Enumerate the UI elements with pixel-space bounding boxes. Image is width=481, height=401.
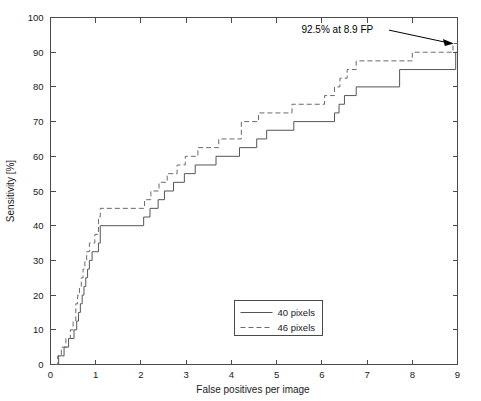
chart-legend: 40 pixels46 pixels <box>235 301 323 336</box>
annotation-arrowhead <box>443 39 454 46</box>
y-tick-label: 20 <box>33 290 44 301</box>
y-tick-label: 30 <box>33 255 44 266</box>
x-tick-label: 5 <box>274 369 279 380</box>
y-tick-label: 80 <box>33 81 44 92</box>
x-tick-label: 3 <box>184 369 189 380</box>
annotation-label: 92.5% at 8.9 FP <box>301 24 373 35</box>
y-tick-label: 0 <box>38 359 43 370</box>
x-axis-title: False positives per image <box>196 384 310 395</box>
y-tick-label: 10 <box>33 324 44 335</box>
x-tick-label: 7 <box>364 369 369 380</box>
annotation-group: 92.5% at 8.9 FP <box>301 24 453 46</box>
x-tick-label: 6 <box>319 369 324 380</box>
x-tick-label: 1 <box>93 369 98 380</box>
x-tick-label: 8 <box>410 369 415 380</box>
x-tick-label: 4 <box>229 369 234 380</box>
y-tick-label: 70 <box>33 116 44 127</box>
y-tick-label: 40 <box>33 220 44 231</box>
y-axis-title: Sensitivity [%] <box>5 160 16 222</box>
x-tick-label: 9 <box>455 369 460 380</box>
y-tick-label: 100 <box>28 12 44 23</box>
y-tick-label: 60 <box>33 151 44 162</box>
x-tick-label: 0 <box>48 369 53 380</box>
figure-container: 0123456789 0102030405060708090100 92.5% … <box>0 0 481 401</box>
legend-label: 40 pixels <box>278 307 316 318</box>
y-tick-label: 50 <box>33 186 44 197</box>
annotation-leader-line <box>389 30 447 42</box>
froc-chart: 0123456789 0102030405060708090100 92.5% … <box>0 0 481 401</box>
x-tick-label: 2 <box>138 369 143 380</box>
y-tick-label: 90 <box>33 47 44 58</box>
legend-label: 46 pixels <box>278 322 316 333</box>
